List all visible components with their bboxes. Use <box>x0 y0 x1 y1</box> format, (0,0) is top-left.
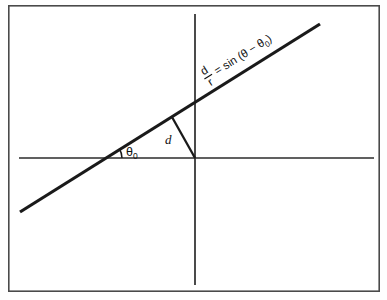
angle-label-symbol: θ <box>126 145 133 159</box>
distance-label: d <box>165 132 172 147</box>
figure-container: θ0 d d r =sin(θ−θ0) <box>0 0 387 300</box>
diagram-canvas: θ0 d d r =sin(θ−θ0) <box>0 0 387 300</box>
angle-label-subscript: 0 <box>133 151 138 161</box>
figure-border <box>9 6 379 291</box>
